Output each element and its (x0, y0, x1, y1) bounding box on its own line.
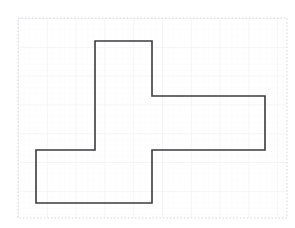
figure-container (0, 0, 295, 228)
figure-canvas (0, 0, 295, 228)
